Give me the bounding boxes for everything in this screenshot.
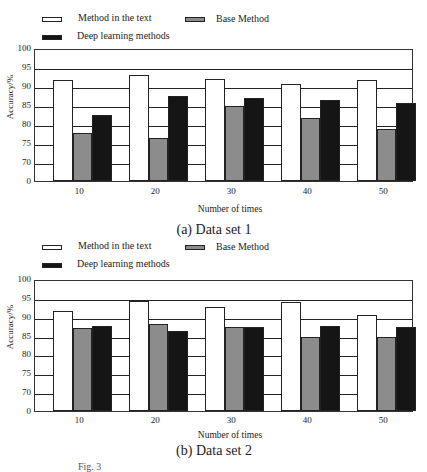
y-tick-label: 100 bbox=[7, 274, 31, 284]
legend-swatch-base-method bbox=[185, 245, 205, 250]
gridline bbox=[35, 300, 412, 301]
bar-deep-learning-10 bbox=[92, 326, 112, 411]
plot-area bbox=[34, 280, 413, 412]
bar-method-in-text-30 bbox=[205, 307, 225, 411]
bar-method-in-text-10 bbox=[53, 311, 73, 411]
bar-base-method-20 bbox=[149, 324, 169, 411]
x-tick-label: 50 bbox=[368, 415, 398, 425]
x-tick-label: 20 bbox=[140, 415, 170, 425]
legend-label: Base Method bbox=[216, 241, 269, 252]
bar-method-in-text-40 bbox=[281, 302, 301, 411]
chart-2: Method in the textBase MethodDeep learni… bbox=[0, 0, 427, 472]
legend-label: Method in the text bbox=[78, 240, 152, 251]
y-tick-label: 80 bbox=[7, 349, 31, 359]
bar-deep-learning-50 bbox=[396, 327, 416, 411]
legend-swatch-method-in-text bbox=[42, 245, 62, 250]
y-tick-label: 70 bbox=[7, 387, 31, 397]
bar-method-in-text-50 bbox=[357, 315, 377, 411]
y-axis-label: Accuracy/% bbox=[5, 305, 15, 349]
y-tick-label: 0 bbox=[7, 406, 31, 416]
y-tick-label: 75 bbox=[7, 368, 31, 378]
x-tick-label: 40 bbox=[292, 415, 322, 425]
subfigure-caption: (b) Data set 2 bbox=[114, 443, 314, 459]
x-tick-label: 30 bbox=[216, 415, 246, 425]
bar-deep-learning-20 bbox=[168, 331, 188, 411]
bar-base-method-50 bbox=[377, 337, 397, 411]
x-axis-label: Number of times bbox=[130, 430, 330, 440]
bar-base-method-10 bbox=[73, 328, 93, 411]
bar-base-method-30 bbox=[225, 327, 245, 411]
bar-deep-learning-30 bbox=[244, 327, 264, 411]
bar-base-method-40 bbox=[301, 337, 321, 411]
bar-deep-learning-40 bbox=[320, 326, 340, 411]
legend-swatch-deep-learning bbox=[42, 263, 62, 268]
legend-label: Deep learning methods bbox=[77, 258, 170, 269]
y-tick-label: 95 bbox=[7, 293, 31, 303]
figure-caption: Fig. 3 bbox=[78, 461, 101, 472]
x-tick-label: 10 bbox=[64, 415, 94, 425]
bar-method-in-text-20 bbox=[129, 301, 149, 411]
